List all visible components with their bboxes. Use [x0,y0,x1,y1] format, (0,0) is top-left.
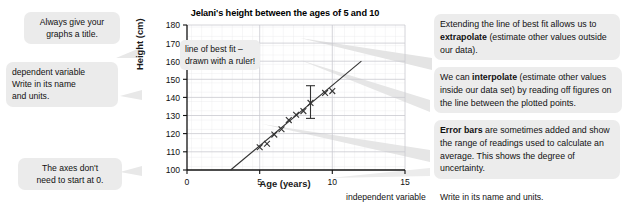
fit-annotation-line2: drawn with a ruler! [185,55,255,67]
interpolate-keyword: interpolate [472,72,517,82]
callout-axes-origin: The axes don't need to start at 0. [18,158,122,190]
svg-text:160: 160 [166,57,181,67]
svg-text:130: 130 [166,111,181,121]
fit-annotation-line1: line of best fit – [185,43,255,55]
callout-interpolate: We can interpolate (estimate other value… [434,67,622,113]
svg-text:5: 5 [257,177,262,187]
callout-axes-line1: The axes don't [24,162,116,174]
svg-text:140: 140 [166,93,181,103]
svg-text:10: 10 [328,177,338,187]
interpolate-text-pre: We can [440,72,472,82]
callout-title: Always give your graphs a title. [24,12,120,44]
callout-extrapolate: Extending the line of best fit allows us… [434,14,620,60]
callout-dependent-line2: Write in its name [12,78,112,90]
svg-text:180: 180 [166,20,181,30]
chart-plot-area: 180 170 160 150 140 130 120 110 100 0 5 [140,8,430,188]
footer-write-name-units: Write in its name and units. [440,192,544,202]
footer-independent-variable: independent variable [346,192,426,202]
worksheet-canvas: Always give your graphs a title. depende… [0,0,625,212]
svg-text:120: 120 [166,129,181,139]
svg-text:170: 170 [166,39,181,49]
callout-title-line1: Always give your [30,16,114,28]
extrapolate-keyword: extrapolate [440,32,487,42]
svg-text:15: 15 [400,177,410,187]
callout-title-line2: graphs a title. [30,28,114,40]
callout-axes-line2: need to start at 0. [24,174,116,186]
svg-text:150: 150 [166,75,181,85]
callout-dependent-line3: and units. [12,90,112,102]
callout-error-bars: Error bars are sometimes added and show … [434,120,620,179]
svg-text:110: 110 [166,147,180,157]
svg-text:0: 0 [185,177,190,187]
error-bars-keyword: Error bars [440,125,483,135]
chart-figure: Jelani's height between the ages of 5 an… [140,8,430,204]
callout-dependent-line1: dependent variable [12,66,112,78]
svg-text:100: 100 [166,165,181,175]
callout-dependent-variable: dependent variable Write in its name and… [6,62,118,107]
chart-fit-annotation: line of best fit – drawn with a ruler! [180,40,260,70]
extrapolate-text-pre: Extending the line of best fit allows us… [440,19,596,29]
